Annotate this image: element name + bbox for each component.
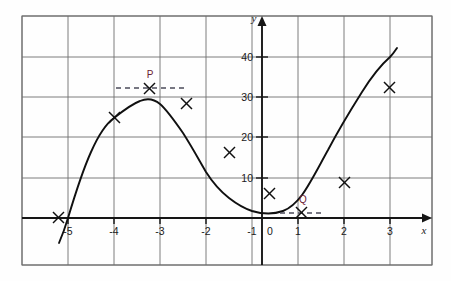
cubic-graph-plot: -5 -4 -3 -2 -1 0 1 2 3 40 30 20 10 x y bbox=[0, 0, 451, 281]
grid-horizontal-lines bbox=[22, 16, 432, 265]
data-point-marker bbox=[384, 82, 395, 93]
y-tick-label: 40 bbox=[241, 51, 253, 63]
x-tick-label: -1 bbox=[247, 225, 256, 237]
x-tick-label: 3 bbox=[387, 225, 393, 237]
y-tick-label: 20 bbox=[241, 131, 253, 143]
x-tick-label: -2 bbox=[201, 225, 210, 237]
y-axis-arrow-icon bbox=[258, 16, 267, 26]
x-axis-arrow-icon bbox=[422, 214, 432, 223]
x-tick-label: -4 bbox=[109, 225, 118, 237]
x-tick-label: -3 bbox=[155, 225, 164, 237]
x-tick-labels: -5 -4 -3 -2 -1 0 1 2 3 bbox=[63, 225, 393, 237]
x-axis-label: x bbox=[421, 224, 427, 236]
data-point-marker bbox=[224, 147, 235, 158]
graph-figure: -5 -4 -3 -2 -1 0 1 2 3 40 30 20 10 x y bbox=[0, 0, 451, 281]
point-label-q: Q bbox=[299, 194, 307, 205]
data-point-marker bbox=[109, 112, 120, 123]
y-axis-label: y bbox=[251, 12, 257, 24]
x-tick-label: 1 bbox=[295, 225, 301, 237]
plot-border bbox=[22, 16, 432, 265]
y-tick-label: 10 bbox=[241, 172, 253, 184]
grid-vertical-lines bbox=[22, 16, 432, 265]
curve-path bbox=[59, 48, 397, 243]
x-axis bbox=[22, 214, 432, 223]
data-point-marker bbox=[181, 98, 192, 109]
point-label-p: P bbox=[147, 69, 154, 80]
y-tick-label: 30 bbox=[241, 91, 253, 103]
x-tick-label: 0 bbox=[267, 225, 273, 237]
x-tick-label: 2 bbox=[341, 225, 347, 237]
data-point-marker bbox=[264, 188, 275, 199]
y-tick-labels: 40 30 20 10 bbox=[241, 51, 253, 184]
data-point-marker bbox=[339, 177, 350, 188]
y-axis bbox=[258, 16, 267, 265]
